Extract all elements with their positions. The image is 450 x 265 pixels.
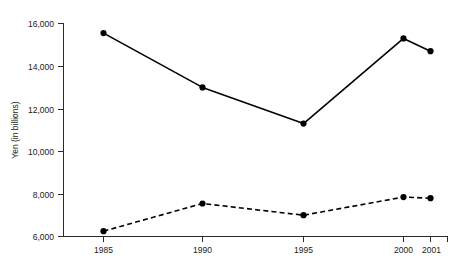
data-point [427, 195, 433, 201]
data-point [199, 84, 205, 90]
x-tick-label: 2001 [422, 245, 441, 255]
x-tick-label: 1990 [193, 245, 212, 255]
chart-background [0, 0, 450, 265]
y-tick-label: 10,000 [28, 147, 54, 157]
data-point [400, 35, 406, 41]
data-point [100, 30, 106, 36]
data-point [427, 48, 433, 54]
data-point [199, 200, 205, 206]
y-tick-label: 6,000 [33, 232, 55, 242]
data-point [300, 212, 306, 218]
y-tick-label: 12,000 [28, 105, 54, 115]
chart-container: 16,000 14,000 12,000 10,000 8,000 6,000 … [0, 0, 450, 265]
y-tick-label: 16,000 [28, 19, 54, 29]
y-tick-label: 14,000 [28, 62, 54, 72]
y-tick-label: 8,000 [33, 190, 55, 200]
data-point [100, 228, 106, 234]
data-point [300, 121, 306, 127]
y-axis-title: Yen (in billions) [10, 101, 20, 158]
x-tick-label: 1995 [294, 245, 313, 255]
data-point [400, 194, 406, 200]
x-tick-label: 1985 [94, 245, 113, 255]
x-tick-label: 2000 [394, 245, 413, 255]
line-chart: 16,000 14,000 12,000 10,000 8,000 6,000 … [0, 0, 450, 265]
